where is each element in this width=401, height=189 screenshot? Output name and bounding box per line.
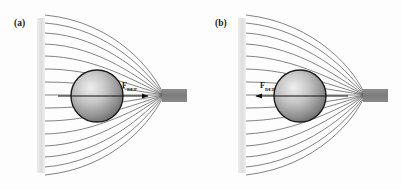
figure-canvas: (a) F DEP	[0, 0, 401, 189]
panel-a-pin-electrode	[162, 89, 187, 102]
panel-b-plate-electrode	[238, 18, 246, 173]
panel-a-plate-electrode	[37, 18, 45, 173]
diagram-background	[0, 0, 401, 189]
dielectrophoresis-diagram: (a) F DEP	[0, 0, 401, 189]
panel-b-force-subscript: DEP	[265, 87, 275, 92]
panel-a-force-subscript: DEP	[127, 87, 137, 92]
panel-a-label: (a)	[14, 18, 25, 29]
panel-b-label: (b)	[215, 18, 227, 29]
panel-b-pin-electrode	[363, 89, 388, 102]
